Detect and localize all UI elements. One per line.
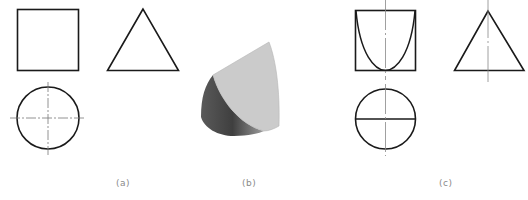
- panel-c: [356, 0, 525, 156]
- panel-a: [10, 9, 179, 155]
- panel-a-label: (a): [116, 178, 130, 188]
- side-view-triangle-c: [455, 11, 525, 71]
- side-view-triangle: [108, 9, 179, 71]
- panel-b-solid: [201, 42, 279, 136]
- front-view-square: [18, 10, 79, 71]
- panel-c-label: (c): [439, 178, 452, 188]
- diagram-canvas: [0, 0, 528, 200]
- panel-b-label: (b): [242, 178, 256, 188]
